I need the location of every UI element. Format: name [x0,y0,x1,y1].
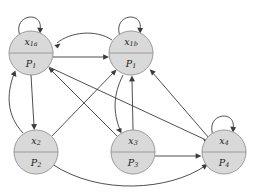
node-x2[interactable]: x2 P2 [14,130,58,174]
node-x1a[interactable]: x1a P1 [9,31,53,75]
node-x4[interactable]: x4 P4 [202,130,246,174]
node-layer: x1a P1 x1b P1 x2 P2 x3 P3 x4 [9,31,246,174]
edge-x2-to-x1a [9,71,23,133]
node-x3[interactable]: x3 P3 [111,130,155,174]
node-x1b[interactable]: x1b P1 [109,31,153,75]
state-transition-graph: x1a P1 x1b P1 x2 P2 x3 P3 x4 [0,0,257,195]
edge-x3-to-x1b [129,75,135,130]
edge-x3-to-x1a [48,67,118,137]
edge-x1a-to-x2 [31,75,37,130]
edge-x1b-to-x1a [54,33,112,48]
edge-x1b-to-x3 [115,75,123,133]
edge-x3-to-x4 [155,153,201,159]
edge-x1a-to-x1b [53,54,109,60]
